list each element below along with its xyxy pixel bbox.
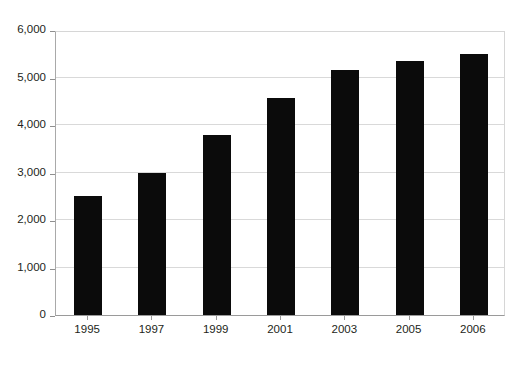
y-axis-tick-label: 2,000 — [2, 213, 46, 225]
y-axis-tick-label: 0 — [2, 308, 46, 320]
bar — [74, 196, 102, 315]
y-axis-tick-label: 4,000 — [2, 118, 46, 130]
x-axis-tick-mark — [151, 316, 152, 320]
y-axis-tick-label: 6,000 — [2, 23, 46, 35]
x-axis-tick-mark — [473, 316, 474, 320]
bar — [331, 70, 359, 315]
bar — [460, 54, 488, 315]
gridline — [56, 77, 504, 78]
bar — [138, 173, 166, 316]
x-axis-tick-label: 1997 — [116, 323, 186, 335]
y-axis-tick-label: 5,000 — [2, 71, 46, 83]
bar — [203, 135, 231, 316]
x-axis-tick-mark — [409, 316, 410, 320]
x-axis-tick-label: 2005 — [374, 323, 444, 335]
bar-chart-figure: 01,0002,0003,0004,0005,0006,000 19951997… — [0, 0, 519, 365]
x-axis-tick-mark — [87, 316, 88, 320]
bar — [267, 98, 295, 315]
x-axis-tick-mark — [216, 316, 217, 320]
x-axis-tick-label: 2003 — [309, 323, 379, 335]
x-axis-tick-label: 2001 — [245, 323, 315, 335]
y-axis-tick-mark — [50, 316, 55, 317]
y-axis-tick-label: 1,000 — [2, 261, 46, 273]
chart-title-cropped — [0, 0, 519, 3]
x-axis-tick-mark — [280, 316, 281, 320]
x-axis-tick-label: 1995 — [52, 323, 122, 335]
x-axis-tick-mark — [344, 316, 345, 320]
plot-area — [55, 31, 505, 316]
x-axis-tick-label: 2006 — [438, 323, 508, 335]
bar — [396, 61, 424, 315]
x-axis-tick-label: 1999 — [181, 323, 251, 335]
y-axis-tick-label: 3,000 — [2, 166, 46, 178]
